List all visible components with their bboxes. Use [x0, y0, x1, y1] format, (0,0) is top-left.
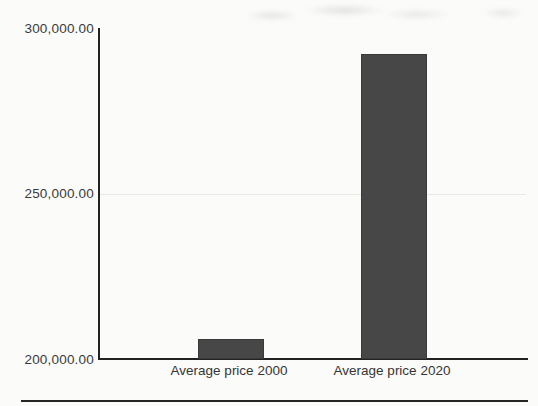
page-divider-rule	[21, 400, 528, 402]
scanned-book-page: 300,000.00250,000.00200,000.00Average pr…	[0, 0, 538, 406]
x-axis-line	[98, 358, 528, 360]
x-category-label-average-price-2020: Average price 2020	[302, 363, 482, 379]
average-price-bar-chart: 300,000.00250,000.00200,000.00Average pr…	[0, 0, 538, 406]
y-tick-label-300000: 300,000.00	[4, 20, 94, 37]
y-tick-label-200000: 200,000.00	[4, 351, 94, 368]
x-category-label-average-price-2000: Average price 2000	[139, 363, 319, 379]
bar-average-price-2000	[198, 339, 264, 359]
bar-average-price-2020	[361, 54, 427, 359]
gridline-250000	[100, 194, 526, 195]
y-tick-label-250000: 250,000.00	[4, 185, 94, 202]
